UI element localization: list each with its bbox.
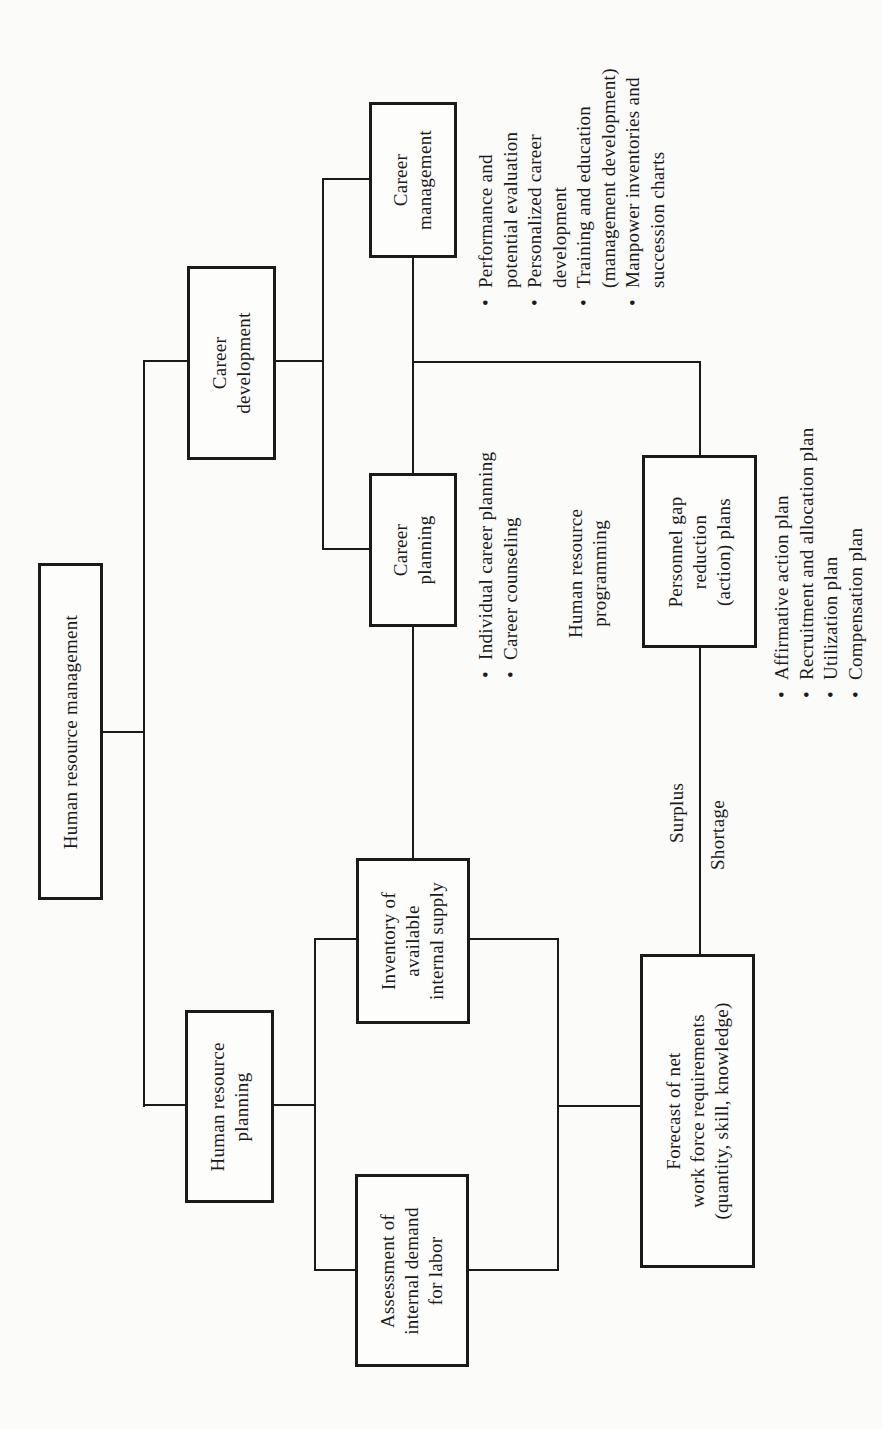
connector-bracket-inventory [314,938,358,940]
node-personnel-gap: Personnel gap reduction (action) plans [642,455,757,648]
bullet-icon: • [474,299,499,306]
list-item: • Performance and potential evaluation [474,68,523,306]
list-item: • Manpower inventories and succession ch… [621,68,670,306]
node-inventory-text: Inventory of available internal supply [377,882,449,1000]
connector-assessment-bracket [467,1269,559,1271]
bullet-icon: • [572,299,597,306]
connector-hrm-spine [102,731,145,733]
node-personnel-gap-text: Personnel gap reduction (action) plans [664,496,736,607]
connector-spine-hr-planning [143,1104,187,1106]
node-hr-planning: Human resource planning [185,1010,274,1203]
connector-bracket-career-management [322,178,371,180]
connector-career-management-planning [412,256,414,474]
connector-bracket-career-planning [322,548,371,550]
connector-bracket-forecast [557,1105,642,1107]
connector-hr-planning-bracket [273,1104,316,1106]
connector-spine-career-development [143,360,189,362]
list-item: • Personalized career development [523,68,572,306]
connector-left-bracket [314,938,316,1271]
node-forecast: Forecast of net work force requirements … [640,954,755,1268]
bullet-icon: • [474,671,499,678]
list-item: • Utilization plan [819,427,844,698]
list-item: • Individual career planning [474,452,499,678]
connector-career-bracket [322,178,324,550]
node-career-development-text: Career development [208,312,256,413]
node-inventory: Inventory of available internal supply [356,858,470,1024]
connector-career-to-gap [412,361,701,363]
bullet-icon: • [819,691,844,698]
bullet-icon: • [523,299,548,306]
bullet-icon: • [499,671,524,678]
list-item: • Affirmative action plan [770,427,795,698]
label-hr-programming: Human resource programming [564,509,612,638]
connector-gap-forecast [699,646,701,956]
connector-main-spine [143,360,145,1107]
connector-career-development-bracket [275,360,324,362]
node-hrm: Human resource management [38,563,103,900]
node-career-management-text: Career management [389,130,437,230]
bullet-icon: • [795,691,820,698]
node-career-planning: Career planning [369,473,457,627]
label-shortage: Shortage [706,800,730,870]
node-career-planning-text: Career planning [389,516,437,585]
connector-inventory-bracket [469,938,559,940]
list-item: • Career counseling [499,452,524,678]
node-career-management: Career management [369,102,457,258]
list-gap-plans: • Affirmative action plan • Recruitment … [770,427,868,698]
label-surplus: Surplus [665,783,689,843]
node-career-development: Career development [187,266,276,460]
list-item: • Training and education (management dev… [572,68,621,306]
node-assessment-text: Assessment of internal demand for labor [376,1207,448,1334]
bullet-icon: • [844,691,869,698]
connector-bracket-assessment [314,1269,357,1271]
connector-career-planning-inventory [412,625,414,859]
list-item: • Compensation plan [844,427,869,698]
node-hrm-text: Human resource management [59,614,83,848]
list-career-planning: • Individual career planning • Career co… [474,452,523,678]
node-assessment: Assessment of internal demand for labor [355,1174,469,1367]
list-career-management: • Performance and potential evaluation •… [474,68,670,306]
bullet-icon: • [621,299,646,306]
list-item: • Recruitment and allocation plan [795,427,820,698]
connector-gap-top [699,361,701,456]
node-hr-planning-text: Human resource planning [206,1042,254,1171]
bullet-icon: • [770,691,795,698]
node-forecast-text: Forecast of net work force requirements … [662,1002,734,1219]
